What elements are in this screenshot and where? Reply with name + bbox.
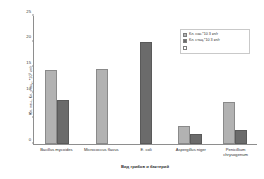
y-tick-mark xyxy=(32,15,34,16)
bar xyxy=(45,70,57,144)
y-tick-label: 20 xyxy=(26,35,31,39)
x-tick-label: Micrococcus flavus xyxy=(79,147,124,157)
bar xyxy=(190,134,202,144)
x-axis-title: Вид грибов и бактерий xyxy=(33,164,257,169)
bar-group xyxy=(35,16,79,144)
legend-swatch-icon xyxy=(183,39,187,43)
bar-group xyxy=(124,16,168,144)
legend-swatch-icon xyxy=(183,33,187,37)
y-tick-mark xyxy=(32,91,34,92)
bar xyxy=(178,126,190,144)
bar xyxy=(235,130,247,144)
y-tick-mark xyxy=(32,143,34,144)
x-tick-label: E. coli xyxy=(124,147,169,157)
legend-item[interactable]: Кл. стац.*10 3 кл/г xyxy=(183,39,247,44)
legend-item[interactable]: Кл. нач.*10 3 кл/г xyxy=(183,32,247,37)
x-tick-label: Aspergillus niger xyxy=(168,147,213,157)
legend-item[interactable] xyxy=(183,45,247,50)
bar-chart: Кл. нач., Кл. стац., *10³ кл/г 051015202… xyxy=(0,0,264,179)
legend-label: Кл. стац.*10 3 кл/г xyxy=(189,39,220,43)
bar xyxy=(96,69,108,144)
y-tick-mark xyxy=(32,66,34,67)
bar-group xyxy=(79,16,123,144)
legend-swatch-icon xyxy=(183,46,187,50)
x-tick-label: Bacillus mycoides xyxy=(34,147,79,157)
y-tick-label: 0 xyxy=(29,138,31,142)
x-axis-labels: Bacillus mycoidesMicrococcus flavusE. co… xyxy=(34,147,258,157)
y-tick-label: 10 xyxy=(26,87,31,91)
y-tick-label: 15 xyxy=(26,61,31,65)
legend-label: Кл. нач.*10 3 кл/г xyxy=(189,33,218,37)
y-tick-label: 25 xyxy=(26,10,31,14)
y-tick-label: 5 xyxy=(29,112,31,116)
bar xyxy=(223,102,235,144)
bar xyxy=(57,100,69,144)
y-tick-mark xyxy=(32,40,34,41)
bar xyxy=(140,42,152,144)
chart-legend: Кл. нач.*10 3 кл/гКл. стац.*10 3 кл/г xyxy=(180,29,250,54)
y-tick-mark xyxy=(32,117,34,118)
x-tick-label: Penicillium chrysogenum xyxy=(213,147,258,157)
